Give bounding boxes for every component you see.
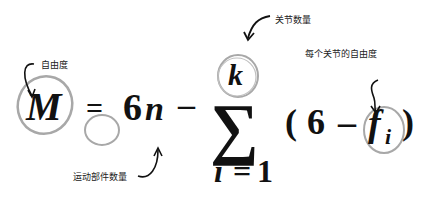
minus-sign-2: –	[338, 104, 356, 140]
symbol-f: f	[368, 104, 381, 142]
summation-sign: ∑	[210, 94, 258, 162]
coefficient-6: 6	[123, 88, 142, 126]
six-in-paren: 6	[307, 104, 325, 140]
subscript-i: i	[385, 126, 391, 148]
label-moving-parts: 运动部件数量	[73, 170, 127, 183]
lower-equals: =	[233, 155, 251, 187]
symbol-n: n	[145, 92, 164, 126]
label-per-joint-dof: 每个关节的自由度	[305, 47, 377, 60]
left-paren: (	[285, 104, 297, 140]
label-dof: 自由度	[41, 58, 68, 71]
lower-value-1: 1	[257, 155, 273, 187]
right-paren: )	[402, 104, 414, 140]
lower-var-i: i	[214, 155, 223, 187]
equals-sign: =	[86, 93, 103, 123]
label-joint-count: 关节数量	[275, 13, 311, 26]
minus-sign-1: –	[178, 88, 195, 122]
upper-limit-k: k	[228, 60, 243, 90]
symbol-m: M	[26, 87, 62, 127]
arrow-to-k-icon	[248, 16, 270, 38]
